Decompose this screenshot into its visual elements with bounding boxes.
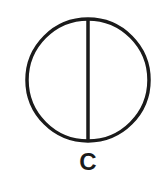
circle-divided-vertically-icon [0,0,155,173]
figure-label: C [0,150,155,173]
diagram-canvas: C [0,0,155,173]
